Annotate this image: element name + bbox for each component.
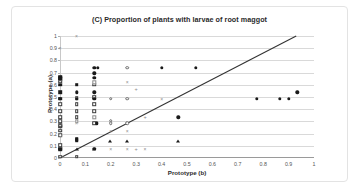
data-point-open-squares: [58, 155, 62, 159]
y-tick-label: 0.6: [50, 82, 57, 88]
data-point-cross-markers: [109, 129, 113, 133]
data-point-plus-markers: [134, 87, 138, 91]
y-tick-label: 0.7: [50, 70, 57, 76]
data-point-cross-markers: [125, 80, 129, 84]
chart-frame: (C) Proportion of plants with larvae of …: [11, 6, 348, 182]
data-point-open-circles: [126, 97, 130, 101]
data-point-triangles: [92, 147, 96, 150]
x-tick-label: 0.6: [209, 161, 216, 167]
data-point-open-squares: [58, 109, 62, 113]
data-point-open-circles: [109, 119, 113, 123]
data-point-cross-markers: [125, 147, 129, 151]
y-tick-label: 0.3: [50, 118, 57, 124]
data-point-open-squares: [58, 143, 62, 147]
y-tick-label: 0: [54, 155, 57, 161]
data-point-cross-markers: [75, 34, 79, 38]
x-tick-label: 0.2: [107, 161, 114, 167]
y-tick-label: 0.4: [50, 106, 57, 112]
data-point-open-squares: [75, 103, 79, 107]
one-to-one-reference-line: [60, 36, 314, 158]
x-tick-label: 0.3: [133, 161, 140, 167]
x-tick-label: 0.1: [82, 161, 89, 167]
data-point-open-squares: [92, 103, 96, 107]
data-point-open-squares: [58, 120, 62, 124]
x-tick-label: 0.8: [260, 161, 267, 167]
data-point-open-squares: [75, 155, 79, 159]
plot-area: 00.10.20.30.40.50.60.70.80.91 00.10.20.3…: [60, 36, 314, 158]
data-point-open-squares: [58, 103, 62, 107]
data-point-triangles: [108, 139, 112, 142]
y-tick-label: 1: [54, 33, 57, 39]
data-point-triangles: [176, 139, 180, 142]
data-point-plus-markers: [143, 115, 147, 119]
data-point-gray-squares: [93, 115, 96, 118]
data-point-open-squares: [58, 129, 62, 133]
x-tick-label: 0.7: [234, 161, 241, 167]
y-tick-label: 0.8: [50, 57, 57, 63]
y-tick-label: 0.9: [50, 45, 57, 51]
y-tick-label: 0.1: [50, 143, 57, 149]
data-point-cross-markers: [160, 97, 164, 101]
data-point-open-circles: [126, 121, 130, 125]
data-point-cross-markers: [125, 129, 129, 133]
data-point-open-squares: [58, 115, 62, 119]
data-point-plus-markers: [134, 147, 138, 151]
data-point-open-circles: [58, 134, 62, 138]
data-point-open-circles: [126, 66, 130, 70]
chart-title: (C) Proportion of plants with larvae of …: [12, 15, 347, 24]
data-point-open-squares: [75, 109, 79, 113]
data-point-triangles: [125, 139, 129, 142]
data-point-gray-squares: [75, 120, 78, 123]
data-point-cross-markers: [58, 46, 62, 50]
x-axis-label: Prototype (b): [60, 169, 314, 176]
data-point-open-squares: [58, 80, 62, 84]
x-tick-label: 1: [313, 161, 316, 167]
data-point-filled-squares: [58, 90, 62, 94]
data-point-filled-squares: [75, 139, 79, 143]
data-point-filled-squares: [58, 148, 62, 152]
data-point-open-squares: [75, 115, 79, 119]
x-tick-label: 0: [59, 161, 62, 167]
x-tick-label: 0.5: [183, 161, 190, 167]
x-tick-label: 0.9: [285, 161, 292, 167]
data-point-filled-squares: [75, 83, 79, 87]
y-tick-label: 0.5: [50, 94, 57, 100]
y-tick-label: 0.2: [50, 131, 57, 137]
data-point-gray-squares: [93, 81, 96, 84]
x-tick-label: 0.4: [158, 161, 165, 167]
plot-inner: 00.10.20.30.40.50.60.70.80.91 00.10.20.3…: [60, 36, 314, 158]
data-point-triangles: [75, 147, 79, 150]
data-point-cross-markers: [109, 147, 113, 151]
data-point-open-circles: [109, 97, 113, 101]
data-point-open-squares: [92, 109, 96, 113]
data-point-cross-markers: [143, 147, 147, 151]
data-point-open-squares: [58, 124, 62, 128]
